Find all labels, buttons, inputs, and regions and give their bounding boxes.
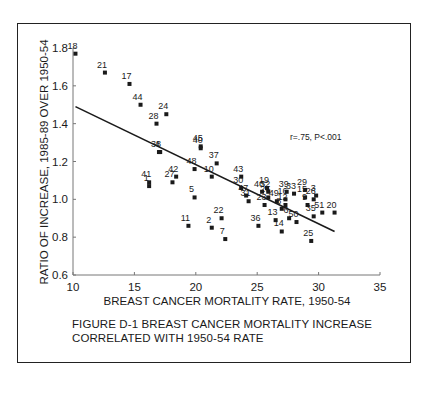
x-axis-label: BREAST CANCER MORTALITY RATE, 1950-54 bbox=[104, 295, 352, 307]
svg-text:14: 14 bbox=[274, 218, 284, 228]
svg-text:44: 44 bbox=[133, 92, 143, 102]
caption-line-2: CORRELATED WITH 1950-54 RATE bbox=[72, 331, 372, 345]
svg-text:18: 18 bbox=[67, 41, 77, 51]
correlation-annotation: r=.75, P<.001 bbox=[290, 132, 342, 142]
svg-text:40: 40 bbox=[193, 135, 203, 145]
svg-text:38: 38 bbox=[151, 139, 161, 149]
data-point: 11 bbox=[181, 213, 191, 228]
data-point: 18 bbox=[67, 41, 77, 56]
svg-text:50: 50 bbox=[288, 209, 298, 219]
svg-text:8: 8 bbox=[276, 196, 281, 206]
svg-text:2: 2 bbox=[206, 215, 211, 225]
figure-caption: FIGURE D-1 BREAST CANCER MORTALITY INCRE… bbox=[72, 317, 372, 345]
x-tick-label: 15 bbox=[128, 281, 141, 293]
data-point: 51 bbox=[314, 200, 324, 215]
y-tick-label: 0.6 bbox=[52, 269, 68, 281]
svg-text:33: 33 bbox=[286, 181, 296, 191]
y-tick-label: 1.6 bbox=[52, 80, 68, 92]
svg-text:31: 31 bbox=[241, 188, 251, 198]
svg-text:13: 13 bbox=[268, 207, 278, 217]
svg-text:37: 37 bbox=[209, 150, 219, 160]
data-point: 23 bbox=[257, 192, 267, 207]
svg-text:48: 48 bbox=[187, 156, 197, 166]
y-tick-label: 0.8 bbox=[52, 231, 68, 243]
svg-text:17: 17 bbox=[121, 71, 131, 81]
svg-text:5: 5 bbox=[189, 184, 194, 194]
svg-text:51: 51 bbox=[314, 200, 324, 210]
svg-text:26: 26 bbox=[306, 186, 316, 196]
data-point: 22 bbox=[214, 205, 224, 220]
data-point: 31 bbox=[241, 188, 251, 203]
caption-line-1: FIGURE D-1 BREAST CANCER MORTALITY INCRE… bbox=[72, 317, 372, 331]
x-tick-label: 35 bbox=[374, 281, 387, 293]
y-axis-label: RATIO OF INCREASE, 1985-89 OVER 1950-54 bbox=[38, 39, 50, 285]
data-point: 44 bbox=[133, 92, 143, 107]
svg-text:36: 36 bbox=[250, 213, 260, 223]
svg-text:28: 28 bbox=[148, 111, 158, 121]
data-point: 2 bbox=[206, 215, 214, 230]
y-tick-label: 1.8 bbox=[52, 42, 68, 54]
x-tick-label: 20 bbox=[189, 281, 202, 293]
svg-text:21: 21 bbox=[97, 60, 107, 70]
svg-text:23: 23 bbox=[257, 192, 267, 202]
data-point: 17 bbox=[121, 71, 131, 86]
y-tick-label: 1.2 bbox=[52, 156, 68, 168]
svg-text:22: 22 bbox=[214, 205, 224, 215]
axes: 1015202530350.60.81.01.21.41.61.8 bbox=[52, 42, 386, 293]
data-point: 24 bbox=[158, 101, 168, 116]
svg-text:10: 10 bbox=[204, 164, 214, 174]
data-point: 40 bbox=[193, 135, 203, 150]
data-point: 14 bbox=[274, 218, 284, 233]
x-tick-label: 10 bbox=[67, 281, 80, 293]
x-tick-label: 25 bbox=[251, 281, 264, 293]
data-point: 28 bbox=[148, 111, 158, 126]
svg-text:27: 27 bbox=[164, 169, 174, 179]
data-point: 36 bbox=[250, 213, 260, 228]
data-point: 38 bbox=[151, 139, 161, 154]
svg-text:1: 1 bbox=[144, 173, 149, 183]
y-tick-label: 1.4 bbox=[52, 118, 69, 130]
data-point: 48 bbox=[187, 156, 197, 171]
data-point: 10 bbox=[204, 164, 214, 179]
data-point: 25 bbox=[303, 228, 313, 243]
svg-text:24: 24 bbox=[158, 101, 168, 111]
svg-text:7: 7 bbox=[220, 226, 225, 236]
svg-text:20: 20 bbox=[327, 200, 337, 210]
svg-text:11: 11 bbox=[181, 213, 190, 223]
data-point: 27 bbox=[164, 169, 174, 184]
data-point: 5 bbox=[189, 184, 197, 199]
data-point: 20 bbox=[327, 200, 337, 215]
svg-text:9: 9 bbox=[302, 192, 307, 202]
svg-text:43: 43 bbox=[233, 164, 243, 174]
svg-text:25: 25 bbox=[303, 228, 313, 238]
data-point: 50 bbox=[288, 209, 298, 224]
x-tick-label: 30 bbox=[312, 281, 325, 293]
data-point: 21 bbox=[97, 60, 107, 75]
data-point: 7 bbox=[220, 226, 228, 241]
y-tick-label: 1.0 bbox=[52, 193, 68, 205]
